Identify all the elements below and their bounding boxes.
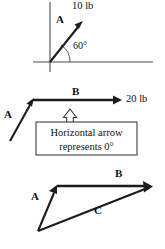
- vector-b-arrowhead: [113, 96, 122, 105]
- panel-vector-triangle: A B C: [0, 167, 165, 249]
- panel2-vector-b-label: B: [72, 86, 80, 97]
- panel1-magnitude-label: 10 lb: [72, 1, 93, 12]
- panel2-magnitude-label: 20 lb: [126, 94, 147, 105]
- vector-a-arrowhead: [75, 21, 84, 29]
- vector-diagram-figure: A 10 lb 60° A B 20 lb Horizontal arrow r…: [0, 0, 165, 249]
- panel1-vector-a-label: A: [56, 14, 64, 25]
- panel3-vector-c-label: C: [94, 205, 102, 216]
- vector-a-arrowhead: [27, 98, 35, 107]
- panel-3-graphics: [0, 167, 165, 249]
- panel3-vector-b-label: B: [115, 168, 123, 179]
- triangle-vector-a-arrowhead: [49, 185, 57, 194]
- callout-text-line-2: represents 0°: [36, 140, 137, 154]
- panel3-vector-a-label: A: [31, 191, 39, 202]
- triangle-resultant-arrowhead: [143, 181, 153, 193]
- callout-pointer-icon: [64, 109, 77, 123]
- panel-single-vector: A 10 lb 60°: [0, 0, 165, 85]
- panel-horizontal-reference: A B 20 lb Horizontal arrow represents 0°: [0, 85, 165, 167]
- panel1-angle-label: 60°: [73, 41, 87, 51]
- panel2-vector-a-label: A: [4, 109, 12, 120]
- vector-a-shaft: [10, 105, 30, 141]
- callout-text-line-1: Horizontal arrow: [36, 126, 137, 140]
